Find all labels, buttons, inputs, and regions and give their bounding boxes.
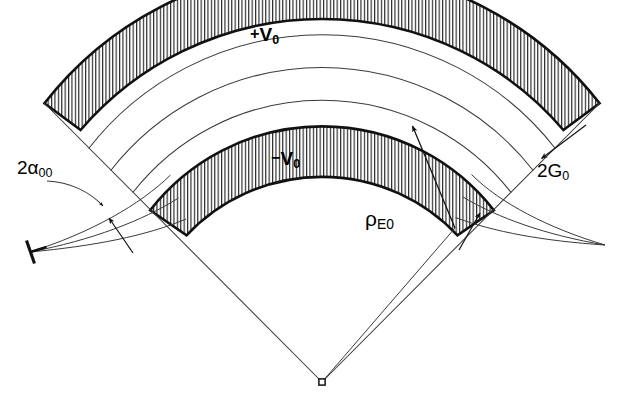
outer-electrode-label: +V0 [250, 24, 279, 47]
inner-electrode-symbol: V [281, 148, 294, 169]
mean-radius-label: ρE0 [365, 207, 394, 232]
half-angle-prefix: 2 [17, 157, 28, 178]
half-angle-subscript: 00 [39, 166, 53, 180]
left-focus-slit-marker [27, 241, 47, 264]
mean-radius-symbol: ρ [365, 207, 377, 230]
outer-electrode-plus-v0 [44, 0, 599, 130]
figure-canvas: +V0 −V0 2α00 2G0 ρE0 [0, 0, 625, 404]
outer-electrode-sign: + [250, 24, 260, 42]
inner-electrode-subscript: 0 [293, 157, 300, 171]
half-angle-label: 2α00 [17, 157, 53, 180]
half-angle-symbol: α [28, 157, 39, 178]
mean-radius-subscript: E0 [377, 216, 394, 232]
half-angle-leader [47, 181, 103, 206]
gap-symbol: G [548, 160, 563, 181]
outer-electrode-subscript: 0 [272, 33, 279, 47]
inner-electrode-sign: − [271, 148, 281, 166]
gap-subscript: 0 [562, 169, 569, 183]
outer-electrode-symbol: V [260, 24, 273, 45]
inner-electrode-minus-v0 [150, 126, 494, 235]
gap-prefix: 2 [537, 160, 548, 181]
inner-electrode-label: −V0 [271, 148, 300, 171]
gap-label: 2G0 [537, 160, 569, 183]
center-of-curvature-marker [319, 379, 325, 385]
deflector-diagram [0, 0, 625, 404]
